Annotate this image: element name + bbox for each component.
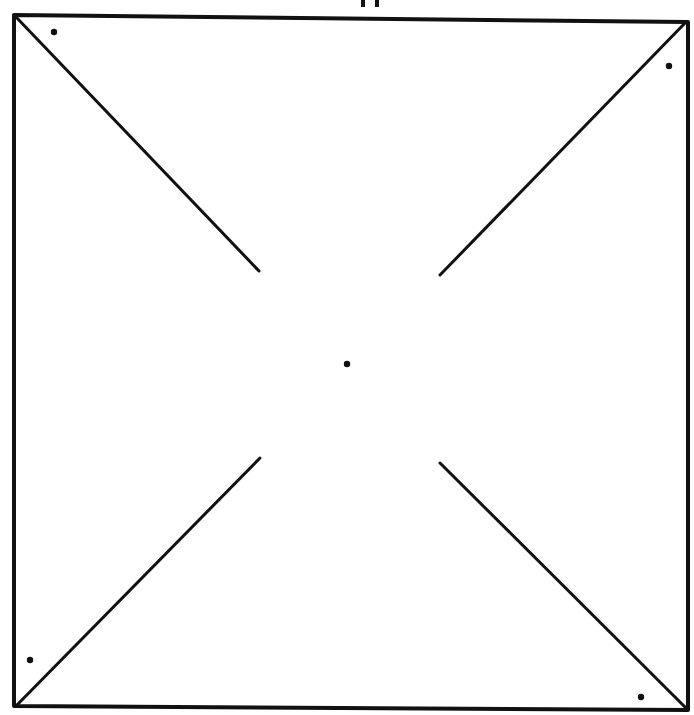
top-left-dot bbox=[51, 29, 57, 35]
center-dot bbox=[344, 361, 350, 367]
bottom-left-cut bbox=[16, 458, 260, 706]
pinwheel-template-diagram bbox=[0, 0, 694, 715]
top-right-cut bbox=[440, 22, 686, 275]
bottom-right-dot bbox=[638, 694, 644, 700]
cropped-heading-marks bbox=[363, 0, 377, 7]
top-right-dot bbox=[666, 63, 672, 69]
top-left-cut bbox=[16, 17, 259, 271]
bottom-right-cut bbox=[440, 463, 686, 708]
diagonal-cut-lines bbox=[16, 17, 686, 708]
bottom-left-dot bbox=[27, 657, 33, 663]
